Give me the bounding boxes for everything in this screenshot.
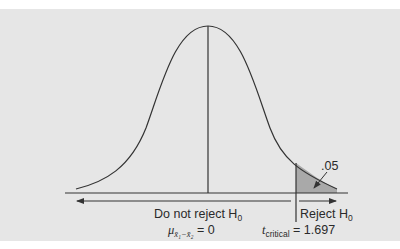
mean-label: μx̄₁−x̄₂ = 0: [168, 224, 215, 239]
do-not-reject-text: Do not reject H: [154, 207, 237, 221]
reject-text: Reject H: [300, 207, 348, 221]
mu-subscript: x̄₁−x̄₂: [174, 229, 193, 239]
do-not-reject-subscript: 0: [237, 213, 242, 223]
mu-value: = 0: [193, 223, 214, 237]
alpha-label: .05: [321, 160, 338, 173]
alpha-value: .05: [321, 159, 338, 173]
t-critical-label: tcritical = 1.697: [262, 224, 335, 239]
reject-label: Reject H0: [300, 208, 353, 223]
do-not-reject-label: Do not reject H0: [154, 208, 242, 223]
reject-subscript: 0: [348, 213, 353, 223]
t-critical-value: = 1.697: [290, 223, 336, 237]
t-subscript: critical: [265, 229, 289, 239]
